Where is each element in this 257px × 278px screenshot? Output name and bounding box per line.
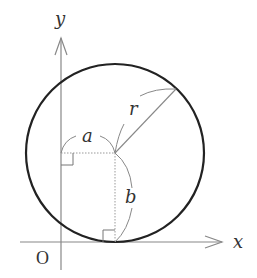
diagram-canvas: y x O a b r (0, 0, 257, 278)
y-axis-label: y (54, 8, 66, 29)
y-axis (55, 38, 67, 270)
origin-label: O (36, 248, 49, 268)
right-angle-mark-y-axis (61, 153, 73, 165)
right-angle-mark-x-axis (103, 230, 115, 242)
label-a: a (82, 125, 93, 146)
x-axis-label: x (233, 231, 243, 252)
label-b: b (125, 186, 137, 207)
radius-line (115, 89, 176, 153)
label-r: r (129, 98, 139, 119)
